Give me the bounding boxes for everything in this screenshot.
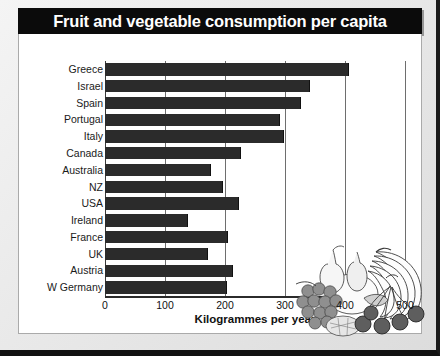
- chart-title-bar: Fruit and vegetable consumption per capi…: [18, 8, 422, 34]
- chart-row: Spain: [105, 95, 405, 112]
- y-axis-label-usa: USA: [0, 195, 103, 212]
- bar-greece: [105, 63, 349, 75]
- bar-ireland: [105, 214, 188, 226]
- chart-row: USA: [105, 195, 405, 212]
- y-axis-label-portugal: Portugal: [0, 111, 103, 128]
- y-axis-label-israel: Israel: [0, 78, 103, 95]
- chart-row: Italy: [105, 128, 405, 145]
- chart-row: Israel: [105, 78, 405, 95]
- x-tick-label-100: 100: [156, 299, 174, 311]
- chart-panel: GreeceIsraelSpainPortugalItalyCanadaAust…: [18, 34, 422, 334]
- y-axis-label-ireland: Ireland: [0, 212, 103, 229]
- chart-row: Ireland: [105, 212, 405, 229]
- bar-israel: [105, 80, 310, 92]
- y-axis-label-spain: Spain: [0, 95, 103, 112]
- bar-uk: [105, 248, 208, 260]
- x-tick-label-400: 400: [336, 299, 354, 311]
- y-axis-label-austria: Austria: [0, 262, 103, 279]
- chart-row: Australia: [105, 162, 405, 179]
- y-axis-label-australia: Australia: [0, 162, 103, 179]
- chart-row: Greece: [105, 61, 405, 78]
- page-title: Fruit and vegetable consumption per capi…: [18, 8, 422, 34]
- bar-italy: [105, 130, 284, 142]
- y-axis-label-uk: UK: [0, 246, 103, 263]
- bar-austria: [105, 265, 233, 277]
- x-tick-label-0: 0: [102, 299, 108, 311]
- y-axis-label-w-germany: W Germany: [0, 279, 103, 296]
- x-tick-label-300: 300: [276, 299, 294, 311]
- bar-w-germany: [105, 281, 227, 293]
- y-axis-label-nz: NZ: [0, 179, 103, 196]
- bar-canada: [105, 147, 241, 159]
- bar-australia: [105, 164, 211, 176]
- x-tick-label-500: 500: [396, 299, 414, 311]
- bar-portugal: [105, 114, 280, 126]
- y-axis-label-italy: Italy: [0, 128, 103, 145]
- x-tick-label-200: 200: [216, 299, 234, 311]
- fruit-basket-illustration: [294, 234, 434, 337]
- bar-spain: [105, 97, 301, 109]
- bar-nz: [105, 181, 223, 193]
- y-axis-label-greece: Greece: [0, 61, 103, 78]
- bar-france: [105, 231, 228, 243]
- bar-usa: [105, 197, 239, 209]
- chart-row: NZ: [105, 179, 405, 196]
- y-axis-label-canada: Canada: [0, 145, 103, 162]
- chart-row: Portugal: [105, 111, 405, 128]
- chart-screenshot: Fruit and vegetable consumption per capi…: [0, 0, 440, 356]
- y-axis-label-france: France: [0, 229, 103, 246]
- chart-row: Canada: [105, 145, 405, 162]
